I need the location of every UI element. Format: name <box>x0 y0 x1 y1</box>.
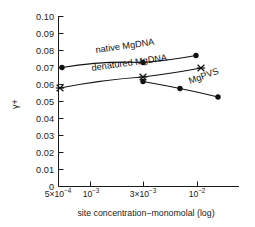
series-native-mgdna-point <box>193 53 198 58</box>
x-tick-label-3-base: 10 <box>189 189 199 199</box>
series-denatured-mgdna-point <box>56 85 64 91</box>
y-tick-label-8: 0.08 <box>36 46 54 56</box>
x-tick-label-1: 10−3 <box>83 187 100 199</box>
x-tick-label-2-base: 3×10 <box>130 189 150 199</box>
y-axis-title: γ+ <box>10 99 20 109</box>
x-axis-title: site concentration−monomolal (log) <box>77 208 214 218</box>
x-tick-marks <box>59 182 198 187</box>
series-mgpvs-point <box>177 86 182 91</box>
x-tick-label-2: 3×10−3 <box>130 187 157 199</box>
chart-plot-area: 0.10 0.09 0.08 0.07 0.06 0.05 0.04 0.03 … <box>0 0 255 227</box>
x-tick-label-0: 5×10−4 <box>45 187 72 199</box>
x-tick-label-1-exp: −3 <box>92 187 100 194</box>
annotation-native-mgdna: native MgDNA <box>95 37 156 55</box>
x-tick-label-3: 10−2 <box>189 187 206 199</box>
x-tick-labels: 5×10−4 10−3 3×10−3 10−2 <box>45 187 206 199</box>
series-annotations: native MgDNA denatured MgDNA MgPVS <box>91 37 220 86</box>
y-tick-labels: 0.10 0.09 0.08 0.07 0.06 0.05 0.04 0.03 … <box>36 12 54 192</box>
annotation-mgpvs: MgPVS <box>187 66 220 86</box>
x-tick-label-0-exp: −4 <box>64 187 72 194</box>
y-tick-marks <box>59 17 64 187</box>
x-tick-label-1-base: 10 <box>83 189 93 199</box>
y-tick-label-6: 0.06 <box>36 80 54 90</box>
y-tick-label-4: 0.04 <box>36 114 54 124</box>
y-tick-label-5: 0.05 <box>36 97 54 107</box>
series-mgpvs-point <box>215 94 220 99</box>
annotation-denatured-mgdna: denatured MgDNA <box>91 52 169 73</box>
series-native-mgdna-point <box>59 65 64 70</box>
series-mgpvs-point <box>140 79 145 84</box>
chart-figure: 0.10 0.09 0.08 0.07 0.06 0.05 0.04 0.03 … <box>0 0 255 227</box>
series-denatured-mgdna-line <box>60 68 201 88</box>
y-tick-label-9: 0.09 <box>36 29 54 39</box>
x-tick-label-3-exp: −2 <box>198 187 206 194</box>
series-denatured-mgdna <box>56 65 205 91</box>
y-tick-label-7: 0.07 <box>36 63 54 73</box>
series-mgpvs <box>140 79 220 100</box>
x-tick-label-0-base: 5×10 <box>45 189 65 199</box>
y-tick-label-3: 0.03 <box>36 131 54 141</box>
y-tick-label-10: 0.10 <box>36 12 54 22</box>
y-tick-label-1: 0.01 <box>36 165 54 175</box>
x-tick-label-2-exp: −3 <box>149 187 157 194</box>
y-tick-label-2: 0.02 <box>36 148 54 158</box>
